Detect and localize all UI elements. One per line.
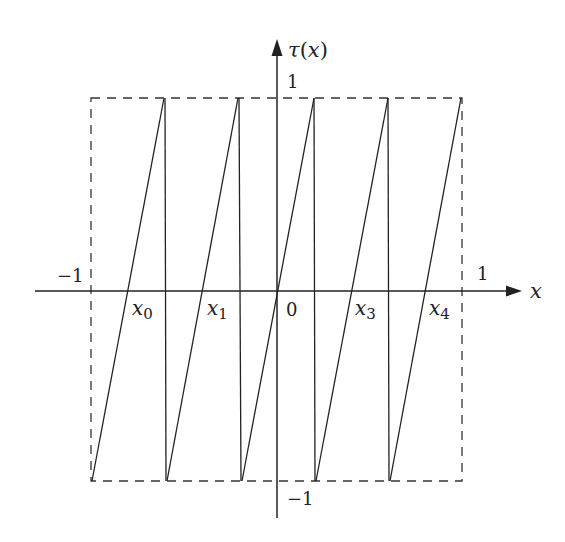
y-tick-top: 1 (287, 71, 298, 92)
origin-label: 0 (286, 299, 297, 320)
y-axis-arrow-icon (272, 39, 283, 56)
y-tick-bottom: −1 (287, 488, 314, 509)
point-label-x3: x3 (355, 296, 376, 323)
x-axis-label: x (530, 279, 542, 303)
x-axis-arrow-icon (506, 286, 522, 297)
point-label-x4: x4 (429, 296, 450, 323)
y-axis-label: τ(x) (288, 38, 328, 62)
sawtooth-diagram: τ(x) x 1 −1 −1 1 0 x0 x1 x3 x4 (0, 0, 565, 542)
x-tick-left: −1 (57, 265, 84, 286)
y-axis-label-arg: ( (300, 38, 308, 62)
point-label-x0: x0 (132, 296, 153, 323)
point-label-x1: x1 (207, 296, 228, 323)
x-tick-right: 1 (477, 263, 488, 284)
